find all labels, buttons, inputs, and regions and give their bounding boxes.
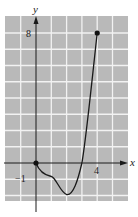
graph: y x 8 −1 4: [0, 0, 138, 217]
y-tick-label-neg1: −1: [15, 173, 26, 184]
y-axis-label: y: [32, 3, 38, 15]
x-axis-label: x: [129, 156, 135, 168]
endpoint-4-8: [95, 30, 100, 35]
x-tick-label-4: 4: [94, 165, 99, 176]
endpoint-origin: [33, 160, 38, 165]
y-tick-label-8: 8: [26, 28, 31, 39]
